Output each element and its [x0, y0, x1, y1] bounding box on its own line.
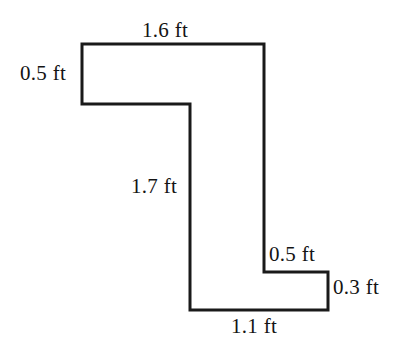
composite-shape-svg: [0, 0, 404, 352]
composite-polygon: [82, 44, 328, 310]
dimension-label-left: 0.5 ft: [20, 63, 66, 84]
dimension-label-middle-vertical: 1.7 ft: [131, 176, 177, 197]
geometry-figure-canvas: 1.6 ft 0.5 ft 1.7 ft 0.5 ft 0.3 ft 1.1 f…: [0, 0, 404, 352]
dimension-label-top: 1.6 ft: [142, 20, 188, 41]
dimension-label-bottom: 1.1 ft: [231, 316, 277, 337]
dimension-label-step-horizontal: 0.5 ft: [269, 244, 315, 265]
dimension-label-right-vertical: 0.3 ft: [333, 277, 379, 298]
